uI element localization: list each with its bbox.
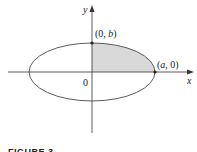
x-axis-label: x	[186, 75, 192, 86]
figure-caption: FIGURE 3	[8, 147, 54, 152]
right-vertex-label: (a, 0)	[157, 59, 179, 71]
right-vertex-dot	[153, 70, 156, 73]
y-axis-label: y	[82, 4, 88, 15]
y-axis-arrow-icon	[90, 5, 95, 12]
ellipse-figure: y x 0 (0, b) (a, 0) FIGURE 3	[0, 0, 197, 152]
top-vertex-dot	[90, 41, 93, 44]
origin-label: 0	[83, 77, 88, 88]
x-axis-arrow-icon	[187, 70, 194, 75]
top-vertex-label: (0, b)	[95, 28, 117, 40]
